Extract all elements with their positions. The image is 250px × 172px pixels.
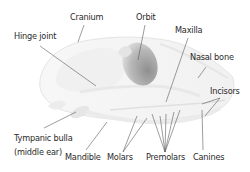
label-molars: Molars [107,152,133,162]
label-incisors: Incisors [210,86,240,96]
label-orbit: Orbit [136,12,156,22]
label-tympanic-bulla-note: (middle ear) [14,147,62,157]
leader-tympanic-bulla [44,112,76,128]
label-tympanic-bulla: Tympanic bulla [14,133,72,143]
label-hinge-joint: Hinge joint [14,31,56,41]
leader-cranium [78,25,84,42]
label-maxilla: Maxilla [175,25,202,35]
leader-molars-2 [123,118,147,152]
label-canines: Canines [193,152,224,162]
leader-mandible [86,122,107,150]
skull-diagram: Cranium Orbit Maxilla Hinge joint Nasal … [0,0,250,172]
label-cranium: Cranium [70,12,103,22]
label-mandible: Mandible [65,152,101,162]
label-nasal-bone: Nasal bone [190,52,234,62]
label-premolars: Premolars [146,152,185,162]
